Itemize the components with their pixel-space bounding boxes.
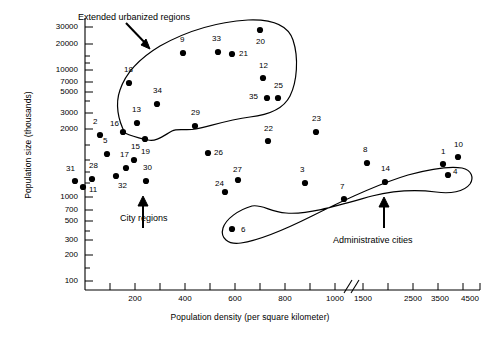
data-point [341, 196, 347, 202]
data-point [80, 184, 86, 190]
data-point [134, 120, 140, 126]
data-point [180, 50, 186, 56]
data-point-label: 6 [241, 225, 245, 234]
data-point-label: 18 [124, 65, 133, 74]
data-point-label: 8 [363, 145, 367, 154]
data-point [215, 49, 221, 55]
data-point [229, 51, 235, 57]
data-point-label: 16 [110, 119, 119, 128]
data-point-label: 15 [131, 142, 140, 151]
data-point-label: 32 [118, 181, 127, 190]
extended-urbanized-regions-label: Extended urbanized regions [78, 12, 190, 22]
data-point [143, 178, 149, 184]
data-point [445, 172, 451, 178]
y-axis-title: Population size (thousands) [23, 65, 33, 225]
data-point-label: 11 [89, 185, 97, 194]
y-tick-label: 100 [18, 276, 78, 285]
data-point [302, 180, 308, 186]
data-point-label: 22 [264, 124, 273, 133]
data-point [313, 129, 319, 135]
administrative-cities-label: Administrative cities [333, 235, 413, 245]
data-point-label: 35 [249, 92, 258, 101]
data-point [192, 123, 198, 129]
data-point-label: 14 [381, 164, 390, 173]
data-point-label: 29 [191, 108, 200, 117]
data-point [222, 189, 228, 195]
data-point [235, 177, 241, 183]
data-point [123, 165, 129, 171]
y-tick-label: 300 [18, 235, 78, 244]
city-regions-label: City regions [120, 213, 168, 223]
data-point [120, 129, 126, 135]
data-point [142, 136, 148, 142]
y-tick-label: 20000 [18, 39, 78, 48]
data-point-label: 30 [143, 163, 152, 172]
data-point-label: 31 [66, 164, 75, 173]
data-point [205, 150, 211, 156]
data-point [131, 157, 137, 163]
data-point [275, 95, 281, 101]
data-point-label: 33 [212, 34, 221, 43]
data-point [126, 80, 132, 86]
annotation-arrows [126, 23, 389, 228]
data-point-label: 19 [141, 147, 150, 156]
data-point [104, 151, 110, 157]
data-point [364, 160, 370, 166]
data-point [440, 161, 446, 167]
x-tick-label: 4500 [440, 294, 500, 303]
data-point [89, 176, 95, 182]
data-point [257, 27, 263, 33]
data-point-label: 2 [93, 117, 97, 126]
data-point [265, 138, 271, 144]
data-point-label: 17 [120, 150, 129, 159]
data-point-label: 5 [103, 136, 107, 145]
data-point-label: 25 [274, 81, 283, 90]
data-point-label: 26 [214, 148, 223, 157]
axis-break-marks [344, 280, 359, 293]
data-point-label: 24 [215, 179, 224, 188]
data-point [72, 178, 78, 184]
data-point [382, 179, 388, 185]
x-axis-title: Population density (per square kilometer… [0, 312, 500, 322]
x-axis-ticks [110, 283, 480, 290]
data-point [113, 173, 119, 179]
data-point [154, 101, 160, 107]
y-tick-label: 30000 [18, 22, 78, 31]
plot-canvas [0, 0, 500, 337]
data-point [229, 226, 235, 232]
y-tick-label: 200 [18, 250, 78, 259]
data-point-label: 28 [89, 161, 98, 170]
data-point-label: 9 [180, 35, 184, 44]
extended-urbanized-regions-outline [118, 20, 297, 141]
data-point-label: 10 [454, 140, 463, 149]
data-point-label: 1 [441, 147, 445, 156]
data-point-label: 21 [239, 49, 248, 58]
data-point [455, 154, 461, 160]
data-point-label: 4 [453, 167, 457, 176]
data-point [264, 95, 270, 101]
data-point-label: 34 [153, 86, 162, 95]
data-point-label: 7 [340, 182, 344, 191]
data-point-label: 3 [300, 165, 304, 174]
data-point-label: 13 [132, 105, 141, 114]
data-point-label: 27 [233, 165, 242, 174]
scatter-chart-figure: 3000020000100007000500030002000100070050… [0, 0, 500, 337]
data-point-label: 12 [259, 61, 268, 70]
y-axis-ticks [85, 27, 93, 281]
administrative-cities-outline [222, 167, 472, 243]
data-point [260, 75, 266, 81]
data-point-label: 23 [312, 114, 321, 123]
data-point-label: 20 [256, 37, 265, 46]
